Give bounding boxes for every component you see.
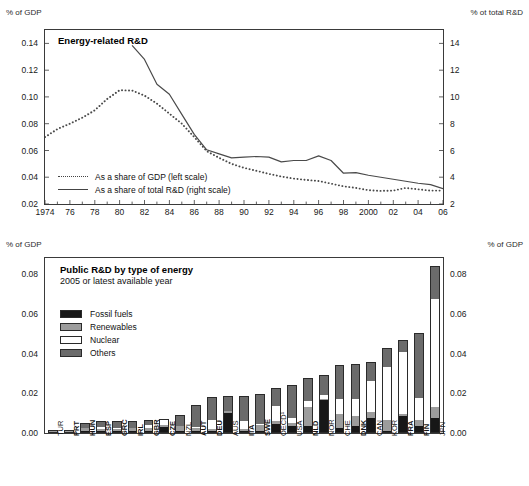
category-label-prt: PRT: [72, 421, 81, 436]
category-label-cze: CZE: [168, 421, 177, 436]
category-label-nzl: NZL: [184, 422, 193, 436]
top-y-tick-left: 0.04: [4, 172, 38, 182]
top-y-tick-left: 0.14: [4, 38, 38, 48]
top-x-tick: 06: [423, 207, 463, 217]
category-label-usa: USA: [295, 421, 304, 436]
bar-segment-others: [414, 333, 424, 398]
bottom-y-tick-right: 0.00: [450, 428, 467, 438]
category-label-che: CHE: [343, 420, 352, 436]
bottom-y-tick-right: 0.04: [450, 349, 467, 359]
category-label-swe: SWE: [263, 419, 272, 436]
bottom-chart-subtitle: 2005 or latest available year: [60, 276, 173, 286]
bottom-chart-left-unit-label: % of GDP: [6, 240, 42, 249]
energy-related-rd-chart: % of GDP % ot total R&D Energy-related R…: [0, 0, 529, 232]
bar-segment-nuclear: [430, 299, 440, 407]
bar-segment-nuclear: [398, 352, 408, 414]
legend-item-nuclear: Nuclear: [60, 334, 137, 346]
bottom-y-tick-left: 0.00: [4, 428, 38, 438]
bar-segment-renewables: [430, 407, 440, 418]
category-label-aus: AUS: [231, 421, 240, 436]
bar-segment-others: [335, 365, 345, 399]
bar-segment-others: [287, 385, 297, 419]
category-label-jpn: JPN: [438, 422, 447, 436]
top-y-tick-right: 12: [450, 65, 459, 75]
others-swatch-icon: [60, 349, 82, 358]
category-label-hun: HUN: [88, 420, 97, 436]
bottom-y-tick-right: 0.02: [450, 388, 467, 398]
bar-segment-nuclear: [335, 399, 345, 414]
top-y-tick-right: 4: [450, 172, 455, 182]
legend-item-fossil-fuels: Fossil fuels: [60, 308, 137, 320]
top-chart-right-unit-label: % ot total R&D: [471, 8, 523, 17]
bar-segment-others: [271, 388, 281, 406]
bar-segment-others: [207, 397, 217, 420]
bottom-y-tick-right: 0.08: [450, 269, 467, 279]
bar-segment-nuclear: [366, 381, 376, 412]
public-rd-by-type-chart: % of GDP % of GDP Public R&D by type of …: [0, 232, 529, 486]
bottom-chart-right-unit-label: % of GDP: [487, 240, 523, 249]
bar-segment-others: [382, 348, 392, 367]
legend-item-others: Others: [60, 347, 137, 359]
legend-label-others: Others: [90, 348, 116, 358]
top-chart-left-unit-label: % of GDP: [6, 8, 42, 17]
bottom-y-tick-left: 0.04: [4, 349, 38, 359]
category-label-ita: ITA: [247, 424, 256, 436]
category-label-fra: FRA: [406, 421, 415, 436]
nuclear-swatch-icon: [60, 336, 82, 345]
legend-label-renewables: Renewables: [90, 322, 137, 332]
legend-label-gdp-share: As a share of GDP (left scale): [95, 172, 207, 182]
category-label-tur: TUR: [56, 421, 65, 436]
bar-segment-others: [303, 378, 313, 400]
bar-segment-others: [430, 266, 440, 300]
category-label-gbr: GBR: [152, 419, 161, 436]
bar-segment-nuclear: [382, 367, 392, 420]
bottom-y-tick-left: 0.02: [4, 388, 38, 398]
bar-segment-others: [239, 396, 249, 422]
category-label-esp: ESP: [104, 421, 113, 436]
category-label-dnk: DNK: [359, 420, 368, 436]
bottom-y-tick-left: 0.06: [4, 309, 38, 319]
bar-segment-others: [223, 396, 233, 410]
bottom-y-tick-right: 0.06: [450, 309, 467, 319]
category-label-aut: AUT: [199, 421, 208, 436]
bar-segment-others: [398, 340, 408, 353]
legend-label-total-rd-share: As a share of total R&D (right scale): [95, 185, 231, 195]
bar-segment-others: [366, 362, 376, 381]
top-chart-legend: As a share of GDP (left scale) As a shar…: [58, 170, 231, 196]
category-label-fin: FIN: [422, 424, 431, 436]
category-label-kor: KOR: [390, 420, 399, 436]
legend-item-gdp-share: As a share of GDP (left scale): [58, 170, 231, 183]
category-label-grc: GRC: [120, 419, 129, 436]
bar-segment-others: [351, 364, 361, 399]
category-label-deu: DEU: [215, 420, 224, 436]
solid-line-icon: [58, 185, 88, 194]
top-y-tick-left: 0.12: [4, 65, 38, 75]
bottom-chart-legend: Fossil fuels Renewables Nuclear Others: [60, 308, 137, 360]
legend-label-fossil-fuels: Fossil fuels: [90, 309, 133, 319]
bar-segment-nuclear: [351, 399, 361, 416]
top-y-tick-right: 6: [450, 146, 455, 156]
category-label-oecd: OECD¹: [279, 412, 288, 436]
legend-label-nuclear: Nuclear: [90, 335, 119, 345]
bar-fra: [398, 340, 408, 433]
renewables-swatch-icon: [60, 323, 82, 332]
dotted-line-icon: [58, 172, 88, 181]
top-y-tick-left: 0.10: [4, 92, 38, 102]
category-label-nld: NLD: [311, 421, 320, 436]
bottom-chart-title: Public R&D by type of energy: [60, 264, 193, 275]
top-y-tick-left: 0.06: [4, 146, 38, 156]
legend-item-renewables: Renewables: [60, 321, 137, 333]
bottom-y-tick-left: 0.08: [4, 269, 38, 279]
top-chart-title: Energy-related R&D: [58, 35, 148, 46]
top-y-tick-left: 0.08: [4, 119, 38, 129]
bar-segment-nuclear: [414, 398, 424, 420]
legend-item-total-rd-share: As a share of total R&D (right scale): [58, 183, 231, 196]
bar-jpn: [430, 266, 440, 433]
top-y-tick-right: 10: [450, 92, 459, 102]
category-label-irl: IRL: [136, 424, 145, 436]
bar-segment-others: [319, 375, 329, 394]
fossil-fuels-swatch-icon: [60, 310, 82, 319]
category-label-nor: NOR: [327, 419, 336, 436]
bar-fin: [414, 333, 424, 433]
category-label-can: CAN: [375, 420, 384, 436]
